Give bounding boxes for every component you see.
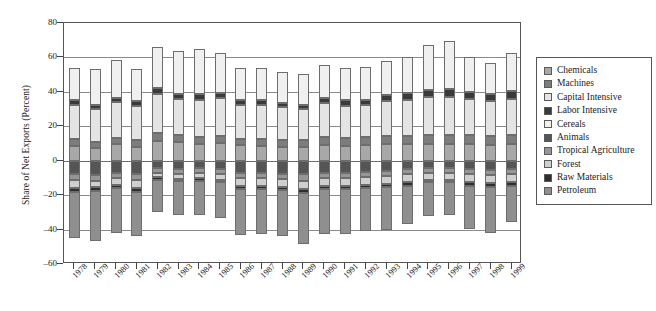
bar-segment bbox=[90, 69, 101, 104]
bar-segment bbox=[69, 68, 80, 101]
bar-segment bbox=[402, 144, 413, 160]
bar-segment bbox=[423, 144, 434, 160]
bar-stack bbox=[131, 23, 142, 264]
bar-segment bbox=[69, 180, 80, 189]
y-axis-title: Share of Net Exports (Percent) bbox=[21, 45, 31, 245]
bar-stack bbox=[277, 23, 288, 264]
legend-item: Capital Intensive bbox=[544, 91, 645, 104]
bar-segment bbox=[319, 65, 330, 98]
bar-segment bbox=[298, 193, 309, 245]
bar-segment bbox=[319, 189, 330, 234]
bar-segment bbox=[173, 51, 184, 94]
bar-segment bbox=[90, 148, 101, 161]
bar-segment bbox=[506, 174, 517, 182]
legend-label: Petroleum bbox=[557, 186, 596, 196]
bar-segment bbox=[485, 161, 496, 170]
bar-segment bbox=[506, 144, 517, 160]
bar-segment bbox=[173, 94, 184, 99]
bar-segment bbox=[444, 97, 455, 135]
bar-segment bbox=[381, 176, 392, 184]
bar-segment bbox=[402, 93, 413, 100]
bar-stack bbox=[235, 23, 246, 264]
bar-segment bbox=[506, 161, 517, 170]
bar-segment bbox=[485, 187, 496, 233]
bar-segment bbox=[319, 161, 330, 173]
bar-segment bbox=[464, 186, 475, 229]
bar-segment bbox=[298, 109, 309, 140]
bar-segment bbox=[152, 141, 163, 161]
bar-segment bbox=[173, 99, 184, 135]
legend-label: Raw Materials bbox=[557, 173, 613, 183]
legend-item: Labor Intensive bbox=[544, 104, 645, 117]
bar-segment bbox=[235, 145, 246, 160]
bar-segment bbox=[319, 103, 330, 137]
bar-segment bbox=[423, 173, 434, 180]
bar-segment bbox=[256, 146, 267, 161]
bar-segment bbox=[319, 137, 330, 145]
bar-segment bbox=[69, 161, 80, 175]
bar-stack bbox=[256, 23, 267, 264]
bar-segment bbox=[111, 144, 122, 160]
bar-segment bbox=[111, 138, 122, 144]
bar-segment bbox=[506, 99, 517, 135]
bar-segment bbox=[506, 53, 517, 91]
bar-segment bbox=[215, 182, 226, 218]
plot-area bbox=[63, 22, 521, 263]
bar-stack bbox=[298, 23, 309, 264]
legend-item: Tropical Agriculture bbox=[544, 144, 645, 157]
legend-swatch-icon bbox=[544, 174, 552, 182]
bar-segment bbox=[90, 181, 101, 188]
bar-segment bbox=[69, 105, 80, 139]
bar-segment bbox=[444, 144, 455, 160]
bar-segment bbox=[506, 135, 517, 144]
legend-label: Chemicals bbox=[557, 66, 597, 76]
bar-segment bbox=[111, 102, 122, 138]
bar-segment bbox=[402, 174, 413, 182]
bar-segment bbox=[131, 192, 142, 237]
legend-label: Capital Intensive bbox=[557, 93, 622, 103]
bar-segment bbox=[131, 161, 142, 175]
legend-label: Animals bbox=[557, 133, 589, 143]
legend-item: Animals bbox=[544, 131, 645, 144]
bar-segment bbox=[506, 186, 517, 222]
bar-segment bbox=[111, 161, 122, 173]
legend-label: Cereals bbox=[557, 120, 586, 130]
bar-segment bbox=[235, 139, 246, 145]
bar-stack bbox=[506, 23, 517, 264]
bar-stack bbox=[319, 23, 330, 264]
bar-segment bbox=[485, 63, 496, 94]
bar-segment bbox=[215, 161, 226, 170]
bar-segment bbox=[111, 60, 122, 98]
bar-segment bbox=[381, 101, 392, 135]
legend-item: Forest bbox=[544, 158, 645, 171]
bar-segment bbox=[69, 192, 80, 238]
bar-segment bbox=[131, 101, 142, 105]
bar-segment bbox=[256, 189, 267, 234]
legend-item: Chemicals bbox=[544, 64, 645, 77]
bar-stack bbox=[152, 23, 163, 264]
bar-segment bbox=[485, 175, 496, 183]
bar-segment bbox=[235, 100, 246, 104]
bar-segment bbox=[464, 92, 475, 99]
bar-segment bbox=[381, 144, 392, 160]
bar-segment bbox=[152, 94, 163, 134]
bar-stack bbox=[69, 23, 80, 264]
bar-segment bbox=[111, 178, 122, 185]
y-axis-tick-label: 80 bbox=[0, 17, 57, 27]
y-axis-tick-label: 40 bbox=[0, 86, 57, 96]
bar-segment bbox=[340, 106, 351, 139]
bar-segment bbox=[464, 135, 475, 144]
bar-segment bbox=[319, 98, 330, 103]
bar-segment bbox=[152, 88, 163, 93]
bar-segment bbox=[173, 161, 184, 170]
bar-segment bbox=[444, 182, 455, 215]
bar-segment bbox=[444, 161, 455, 168]
bar-segment bbox=[464, 57, 475, 91]
legend-label: Forest bbox=[557, 160, 581, 170]
bar-segment bbox=[152, 180, 163, 213]
bar-segment bbox=[381, 187, 392, 229]
y-axis-tick-mark bbox=[57, 263, 63, 264]
legend-item: Machines bbox=[544, 77, 645, 90]
bar-segment bbox=[298, 181, 309, 190]
bar-segment bbox=[215, 136, 226, 143]
